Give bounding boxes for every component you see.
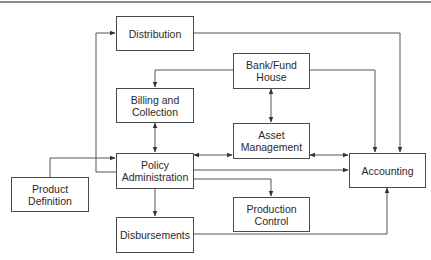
edge-policy-to-production <box>193 179 271 196</box>
node-disbursements: Disbursements <box>116 217 194 253</box>
node-label: Product Definition <box>28 183 72 207</box>
node-label: Billing and Collection <box>131 94 179 118</box>
node-label: Bank/Fund House <box>246 59 297 83</box>
node-production-control: Production Control <box>233 197 310 232</box>
node-label: Distribution <box>129 28 182 40</box>
edge-bank-to-accounting <box>309 70 375 152</box>
node-asset-management: Asset Management <box>233 123 310 159</box>
node-product-definition: Product Definition <box>11 177 89 212</box>
node-label: Production Control <box>246 203 296 227</box>
edge-product-to-policy <box>50 158 115 177</box>
node-policy-administration: Policy Administration <box>116 153 194 189</box>
node-accounting: Accounting <box>349 153 426 188</box>
node-bank-fund-house: Bank/Fund House <box>233 53 310 89</box>
node-label: Disbursements <box>120 229 190 241</box>
edge-policy-to-distribution <box>96 33 116 172</box>
node-label: Policy Administration <box>122 159 189 183</box>
edge-bank-to-billing <box>155 70 233 87</box>
node-distribution: Distribution <box>116 16 194 51</box>
node-label: Accounting <box>362 165 414 177</box>
node-billing-and-collection: Billing and Collection <box>116 88 194 123</box>
connector-lines <box>0 0 431 260</box>
node-label: Asset Management <box>241 129 302 153</box>
